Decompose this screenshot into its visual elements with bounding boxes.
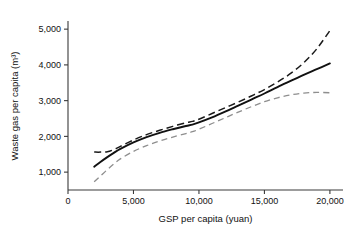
chart-figure: 1,0002,0003,0004,0005,000 05,00010,00015… [0,0,350,236]
x-tick-label: 10,000 [185,196,213,206]
y-tick-label: 2,000 [38,132,61,142]
x-axis-title: GSP per capita (yuan) [159,213,253,224]
chart-background [0,0,350,236]
y-tick-label: 1,000 [38,167,61,177]
x-tick-label: 20,000 [316,196,344,206]
x-tick-label: 15,000 [251,196,279,206]
y-tick-label: 3,000 [38,96,61,106]
y-tick-label: 4,000 [38,60,61,70]
line-chart: 1,0002,0003,0004,0005,000 05,00010,00015… [0,0,350,236]
x-tick-label: 5,000 [122,196,145,206]
y-tick-label: 5,000 [38,24,61,34]
y-axis-title: Waste gas per capita (m³) [9,52,20,161]
x-tick-label: 0 [65,196,70,206]
